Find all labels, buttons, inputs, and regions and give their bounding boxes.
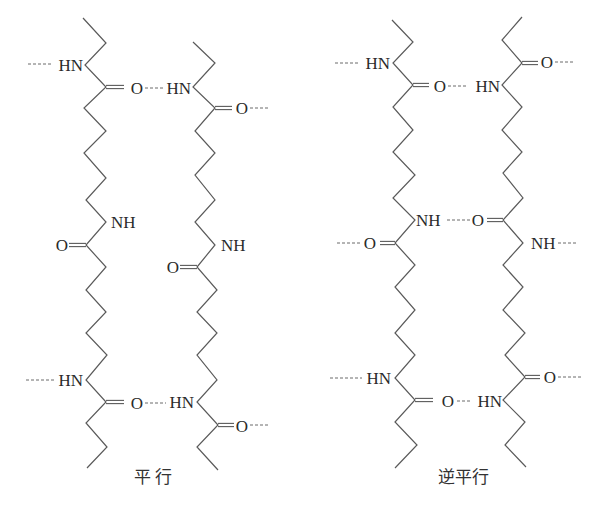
oxygen-atom-label: O bbox=[236, 417, 248, 436]
oxygen-atom-label: O bbox=[544, 368, 556, 387]
hydrogen-bond-diagram-canvas: HNOHNONHONHOHNOHNO HNOHNONHOONHHNOHNO 平 … bbox=[0, 0, 600, 508]
oxygen-atom-label: O bbox=[131, 394, 143, 413]
amide-nh-label: NH bbox=[531, 234, 556, 253]
oxygen-atom-label: O bbox=[541, 53, 553, 72]
oxygen-atom-label: O bbox=[472, 211, 484, 230]
amide-nh-label: HN bbox=[58, 56, 83, 75]
amide-nh-label: HN bbox=[166, 79, 191, 98]
antiparallel-sheet-figure: HNOHNONHOONHHNOHNO bbox=[330, 17, 582, 468]
strand-c-backbone bbox=[392, 20, 417, 468]
strand-a-backbone bbox=[83, 18, 107, 468]
amide-nh-label: NH bbox=[221, 236, 246, 255]
amide-nh-label: HN bbox=[366, 369, 391, 388]
amide-nh-label: NH bbox=[416, 211, 441, 230]
oxygen-atom-label: O bbox=[167, 258, 179, 277]
parallel-sheet-figure: HNOHNONHONHOHNOHNO bbox=[26, 18, 270, 470]
caption-parallel: 平 行 bbox=[134, 468, 172, 487]
oxygen-atom-label: O bbox=[236, 99, 248, 118]
amide-nh-label: HN bbox=[475, 77, 500, 96]
caption-antiparallel: 逆平行 bbox=[438, 468, 489, 487]
amide-nh-label: NH bbox=[111, 213, 136, 232]
amide-nh-label: HN bbox=[365, 54, 390, 73]
beta-sheet-diagram: HNOHNONHONHOHNOHNO HNOHNONHOONHHNOHNO 平 … bbox=[0, 0, 600, 508]
amide-nh-label: HN bbox=[477, 392, 502, 411]
amide-nh-label: HN bbox=[169, 393, 194, 412]
amide-nh-label: HN bbox=[58, 371, 83, 390]
oxygen-atom-label: O bbox=[56, 236, 68, 255]
oxygen-atom-label: O bbox=[442, 392, 454, 411]
strand-d-backbone bbox=[502, 17, 526, 467]
strand-b-backbone bbox=[193, 42, 218, 470]
oxygen-atom-label: O bbox=[131, 79, 143, 98]
oxygen-atom-label: O bbox=[434, 77, 446, 96]
oxygen-atom-label: O bbox=[364, 234, 376, 253]
